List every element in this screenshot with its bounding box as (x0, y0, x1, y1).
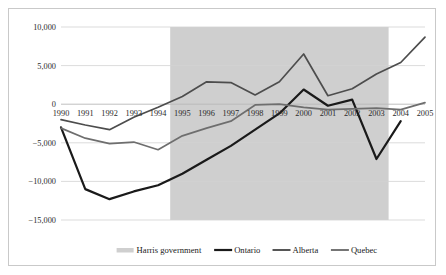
x-axis-tick-label: 2003 (368, 109, 385, 118)
harris-government-shading (170, 27, 388, 220)
line-chart: 10,0005,0000−5,000−10,000−15,000 1990199… (9, 9, 437, 267)
x-axis-tick-label: 1990 (53, 109, 70, 118)
x-axis-tick-label: 1994 (150, 109, 167, 118)
x-axis-tick-label: 2004 (392, 109, 409, 118)
x-axis-tick-label: 2000 (295, 109, 312, 118)
x-axis-tick-label: 1996 (198, 109, 215, 118)
chart-figure: 10,0005,0000−5,000−10,000−15,000 1990199… (8, 8, 436, 266)
x-axis-tick-label: 1991 (77, 109, 94, 118)
x-axis-tick-label: 2002 (344, 109, 361, 118)
x-axis-tick-label: 1995 (174, 109, 191, 118)
legend-swatch-harris-government (117, 248, 134, 253)
y-axis-labels: 10,0005,0000−5,000−10,000−15,000 (29, 23, 57, 225)
y-axis-tick-label: 0 (52, 100, 56, 109)
y-axis-tick-label: 5,000 (37, 62, 56, 71)
x-axis-tick-label: 1997 (223, 109, 240, 118)
x-axis-tick-label: 2005 (417, 109, 434, 118)
y-axis-tick-label: 10,000 (33, 23, 56, 32)
x-axis-tick-label: 1998 (247, 109, 264, 118)
legend-label-ontario: Ontario (234, 245, 260, 255)
y-axis-tick-label: −10,000 (29, 177, 57, 186)
chart-legend: Harris governmentOntarioAlbertaQuebec (117, 245, 378, 255)
y-axis-tick-label: −5,000 (33, 139, 56, 148)
shaded-region-group (170, 27, 388, 220)
y-axis-tick-label: −15,000 (29, 216, 57, 225)
x-axis-tick-label: 1992 (101, 109, 118, 118)
x-axis-tick-label: 1993 (126, 109, 143, 118)
legend-label-alberta: Alberta (293, 245, 319, 255)
legend-label-quebec: Quebec (351, 245, 377, 255)
x-axis-tick-label: 2001 (320, 109, 337, 118)
x-axis-tick-label: 1999 (271, 109, 288, 118)
legend-label-harris-government: Harris government (137, 245, 202, 255)
